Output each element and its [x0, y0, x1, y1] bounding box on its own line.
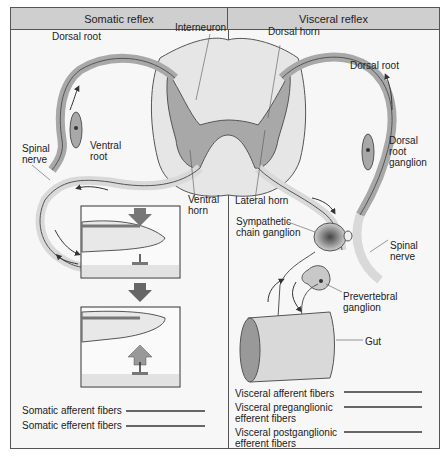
label-prevertebral-ganglion: Prevertebral ganglion	[343, 291, 397, 313]
label-dorsal-root-ganglion: Dorsal root ganglion	[389, 135, 427, 168]
label-dorsal-root-right: Dorsal root	[350, 60, 399, 71]
gut	[248, 312, 335, 382]
legend-line-visceral-afferent	[344, 391, 422, 393]
label-spinal-nerve-left: Spinal nerve	[22, 143, 50, 165]
label-ventral-root: Ventral root	[90, 140, 121, 162]
label-sympathetic-chain-ganglion: Sympathetic chain ganglion	[236, 216, 301, 238]
label-spinal-nerve-right: Spinal nerve	[390, 240, 418, 262]
label-interneuron: Interneuron	[175, 22, 226, 33]
transition-arrow	[128, 283, 152, 302]
legend-line-visceral-preganglionic	[344, 406, 422, 408]
legend-somatic-afferent: Somatic afferent fibers	[22, 405, 122, 416]
label-ventral-horn: Ventral horn	[188, 194, 219, 216]
legend-visceral-preganglionic: Visceral preganglionic efferent fibers	[235, 402, 333, 424]
legend-line-somatic-afferent	[126, 410, 205, 412]
sympathetic-chain-ganglion	[314, 223, 346, 251]
legend-line-somatic-efferent	[126, 425, 205, 427]
label-dorsal-horn: Dorsal horn	[268, 26, 320, 37]
legend-somatic-efferent: Somatic efferent fibers	[22, 420, 122, 431]
legend-line-visceral-postganglionic	[344, 431, 422, 433]
prevertebral-ganglion	[302, 266, 330, 290]
legend-visceral-postganglionic: Visceral postganglionic efferent fibers	[235, 427, 337, 449]
label-lateral-horn: Lateral horn	[235, 195, 288, 206]
label-gut: Gut	[365, 336, 381, 347]
legend-visceral-afferent: Visceral afferent fibers	[235, 388, 334, 399]
label-dorsal-root-left: Dorsal root	[52, 31, 101, 42]
